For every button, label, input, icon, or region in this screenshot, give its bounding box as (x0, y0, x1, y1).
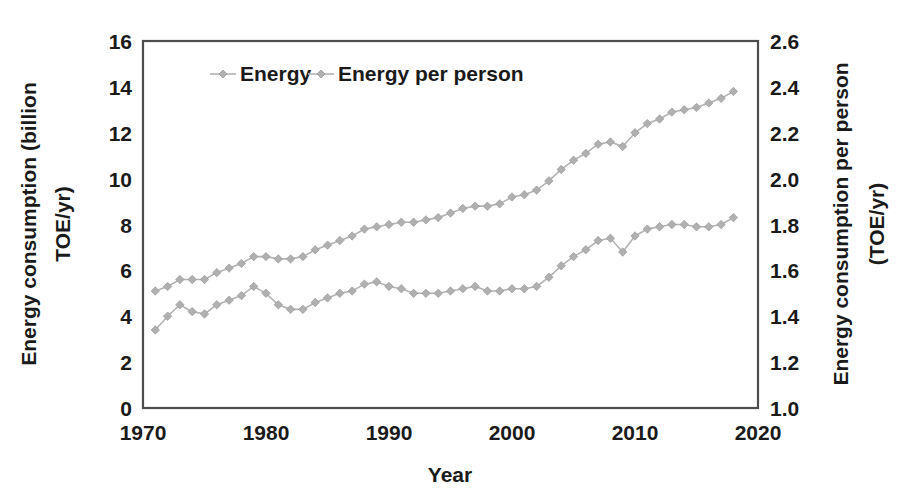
series-0-point-1980 (262, 252, 270, 260)
y-left-tick-8: 8 (120, 214, 132, 237)
series-0-point-1999 (496, 200, 504, 208)
series-1-point-2017 (717, 220, 725, 228)
series-0-point-2012 (655, 115, 663, 123)
series-0-point-1997 (471, 202, 479, 210)
series-1-point-2000 (508, 285, 516, 293)
series-0-point-1998 (483, 202, 491, 210)
series-0-point-1996 (459, 204, 467, 212)
y-axis-left-ticks: 0246810121416 (109, 30, 133, 420)
y-right-tick-2.2: 2.2 (770, 122, 799, 145)
series-1-point-2011 (643, 225, 651, 233)
series-0-point-2016 (705, 99, 713, 107)
y-axis-right-title-line1: Energy consumption per person (829, 62, 852, 385)
series-energy-per-person (151, 213, 738, 334)
y-left-tick-0: 0 (120, 397, 132, 420)
series-1-point-1992 (409, 289, 417, 297)
legend-label-energy-per-person: Energy per person (338, 62, 524, 85)
series-0-point-1981 (274, 255, 282, 263)
y-right-tick-2.0: 2.0 (770, 168, 799, 191)
data-series-layer (151, 87, 738, 334)
y-left-tick-16: 16 (109, 30, 132, 53)
legend-marker-energy-per-person (317, 70, 325, 78)
series-0-point-1993 (422, 216, 430, 224)
series-1-point-1993 (422, 289, 430, 297)
x-tick-1990: 1990 (366, 421, 413, 444)
series-0-point-2017 (717, 94, 725, 102)
series-1-point-1984 (311, 298, 319, 306)
series-0-point-1995 (446, 209, 454, 217)
series-1-point-1996 (459, 285, 467, 293)
x-tick-2000: 2000 (489, 421, 536, 444)
x-tick-1970: 1970 (120, 421, 167, 444)
series-0-point-1983 (299, 252, 307, 260)
series-1-point-1999 (496, 287, 504, 295)
y-axis-left-title-line2: TOE/yr) (51, 186, 74, 261)
series-0-point-1986 (336, 236, 344, 244)
series-1-point-2016 (705, 223, 713, 231)
series-1-point-1991 (397, 285, 405, 293)
series-1-point-2013 (668, 220, 676, 228)
series-0-point-2015 (692, 103, 700, 111)
y-left-tick-2: 2 (120, 351, 132, 374)
y-left-tick-10: 10 (109, 168, 132, 191)
series-1-point-1982 (286, 305, 294, 313)
y-right-tick-1.0: 1.0 (770, 397, 799, 420)
series-1-point-1987 (348, 287, 356, 295)
series-0-point-1987 (348, 232, 356, 240)
legend-marker-energy (219, 70, 227, 78)
x-tick-1980: 1980 (243, 421, 290, 444)
y-right-tick-1.4: 1.4 (770, 305, 800, 328)
series-0-point-1992 (409, 218, 417, 226)
series-0-point-1973 (176, 275, 184, 283)
series-0-point-2014 (680, 106, 688, 114)
y-left-tick-6: 6 (120, 259, 132, 282)
series-1-point-1986 (336, 289, 344, 297)
energy-consumption-line-chart: 0246810121416 1.01.21.41.61.82.02.22.42.… (0, 0, 910, 494)
y-right-tick-1.2: 1.2 (770, 351, 799, 374)
series-1-point-1994 (434, 289, 442, 297)
series-1-point-1983 (299, 305, 307, 313)
y-axis-left-title-line1: Energy consumption (billion (17, 82, 40, 366)
series-1-point-2012 (655, 223, 663, 231)
series-1-point-2018 (729, 213, 737, 221)
y-right-tick-1.6: 1.6 (770, 259, 799, 282)
series-0-point-1976 (213, 268, 221, 276)
series-0-point-1972 (163, 282, 171, 290)
series-0-point-2018 (729, 87, 737, 95)
series-0-point-2001 (520, 190, 528, 198)
series-1-point-2015 (692, 223, 700, 231)
series-1-point-1997 (471, 282, 479, 290)
y-right-tick-2.6: 2.6 (770, 30, 799, 53)
chart-figure: 0246810121416 1.01.21.41.61.82.02.22.42.… (0, 0, 910, 494)
series-0-point-1989 (373, 223, 381, 231)
series-0-point-2013 (668, 108, 676, 116)
series-1-point-1985 (323, 294, 331, 302)
y-right-tick-1.8: 1.8 (770, 214, 800, 237)
series-0-point-1978 (237, 259, 245, 267)
y-left-tick-12: 12 (109, 122, 132, 145)
chart-legend: Energy Energy per person (210, 62, 524, 85)
series-1-point-1995 (446, 287, 454, 295)
series-1-point-1998 (483, 287, 491, 295)
series-1-point-1977 (225, 296, 233, 304)
y-left-tick-14: 14 (109, 76, 133, 99)
x-tick-2020: 2020 (735, 421, 782, 444)
plot-area-frame (143, 41, 758, 408)
series-1-point-1988 (360, 280, 368, 288)
legend-label-energy: Energy (240, 62, 312, 85)
series-line-1 (155, 218, 733, 330)
series-1-point-2001 (520, 285, 528, 293)
y-right-tick-2.4: 2.4 (770, 76, 800, 99)
series-1-point-1974 (188, 307, 196, 315)
y-axis-right-ticks: 1.01.21.41.61.82.02.22.42.6 (770, 30, 800, 420)
series-0-point-1982 (286, 255, 294, 263)
series-0-point-1990 (385, 220, 393, 228)
x-tick-2010: 2010 (612, 421, 659, 444)
y-axis-right-title-line2: (TOE/yr) (865, 183, 888, 265)
series-1-point-1989 (373, 278, 381, 286)
series-0-point-2008 (606, 138, 614, 146)
series-0-point-1988 (360, 225, 368, 233)
series-energy (151, 87, 738, 295)
x-axis-title: Year (428, 463, 472, 486)
series-1-point-1990 (385, 282, 393, 290)
